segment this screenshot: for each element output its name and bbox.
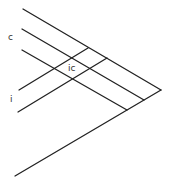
label-i: i xyxy=(10,95,13,104)
label-c: c xyxy=(8,33,13,42)
label-ic: ic xyxy=(68,64,75,73)
diagram-canvas xyxy=(0,0,169,183)
c-line-upper xyxy=(22,29,144,100)
i-line-lower xyxy=(18,58,107,112)
upper-boundary-line xyxy=(23,9,161,90)
lower-boundary-line xyxy=(15,90,161,176)
